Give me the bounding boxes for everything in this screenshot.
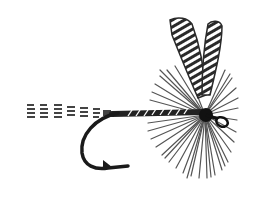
wings xyxy=(170,18,222,98)
fly-illustration xyxy=(0,0,262,199)
tail xyxy=(27,104,111,118)
hook-bend xyxy=(82,113,128,168)
